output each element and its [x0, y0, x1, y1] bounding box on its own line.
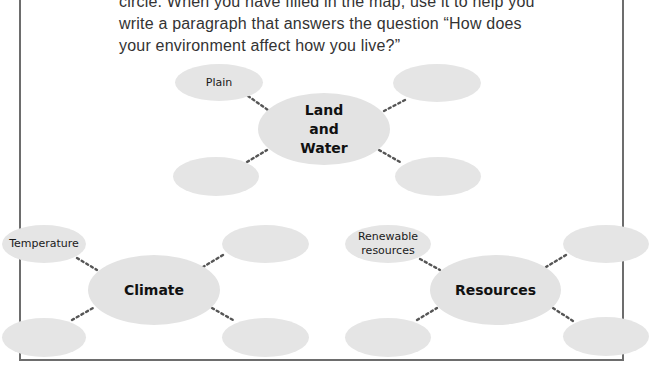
climate-leaf-bottom-right[interactable] [222, 318, 309, 357]
resources-leaf-top-right[interactable] [563, 225, 649, 263]
land-water-leaf-top-right[interactable] [393, 64, 481, 102]
center-label-line: and [300, 120, 347, 139]
climate-leaf-bottom-left[interactable] [2, 318, 86, 357]
climate-leaf-top-right[interactable] [222, 225, 309, 263]
resources-center: Resources [430, 255, 561, 325]
center-label: Climate [124, 281, 184, 300]
resources-leaf-renewable[interactable]: Renewable resources [345, 225, 431, 263]
resources-leaf-bottom-left[interactable] [345, 318, 431, 357]
resources-leaf-bottom-right[interactable] [563, 317, 649, 356]
climate-center: Climate [88, 255, 220, 325]
center-label-line: Water [300, 139, 347, 158]
leaf-label-line: resources [358, 244, 418, 258]
center-label: Resources [455, 281, 536, 300]
land-water-center: Land and Water [258, 93, 390, 165]
leaf-label-line: Renewable [358, 230, 418, 244]
land-water-leaf-plain[interactable]: Plain [175, 64, 263, 101]
land-water-leaf-bottom-left[interactable] [173, 157, 259, 196]
land-water-leaf-bottom-right[interactable] [395, 157, 481, 196]
center-label-line: Land [300, 101, 347, 120]
leaf-label: Temperature [9, 237, 79, 251]
leaf-label: Plain [206, 76, 232, 90]
climate-leaf-temperature[interactable]: Temperature [2, 225, 86, 263]
